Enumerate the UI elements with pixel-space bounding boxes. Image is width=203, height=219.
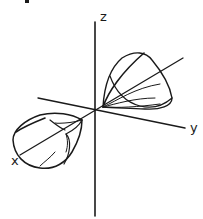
upper-lobe bbox=[103, 53, 172, 109]
lower-lobe bbox=[13, 113, 82, 168]
y-axis-label: y bbox=[190, 121, 198, 134]
orbital-diagram bbox=[0, 0, 203, 219]
z-axis-label: z bbox=[100, 10, 107, 23]
x-axis-label: x bbox=[11, 154, 19, 167]
x-axis bbox=[20, 58, 183, 155]
